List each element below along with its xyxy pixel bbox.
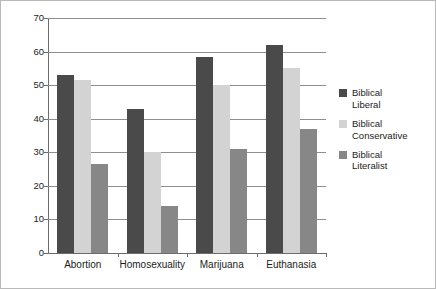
legend-swatch-icon-0	[339, 89, 347, 97]
bar-marijuana-biblical-liberal[interactable]	[196, 57, 213, 253]
x-tick-mark-3	[257, 253, 258, 257]
legend-label: BiblicalLiteralist	[352, 149, 387, 173]
legend-label: BiblicalConservative	[352, 118, 407, 142]
bar-marijuana-biblical-literalist[interactable]	[230, 149, 247, 253]
x-tick-mark-2	[187, 253, 188, 257]
legend-item-biblical-liberal[interactable]: BiblicalLiberal	[339, 87, 435, 111]
y-tick-mark-50	[44, 85, 48, 86]
y-tick-mark-20	[44, 186, 48, 187]
y-tick-label-10: 10	[4, 215, 44, 225]
y-tick-label-70: 70	[4, 13, 44, 23]
y-tick-mark-60	[44, 52, 48, 53]
plot-area	[48, 18, 326, 253]
bar-group-euthanasia	[266, 18, 317, 253]
legend-swatch-icon-2	[339, 151, 347, 159]
y-tick-label-40: 40	[4, 114, 44, 124]
y-tick-mark-10	[44, 219, 48, 220]
x-tick-label-homosexuality: Homosexuality	[119, 259, 185, 270]
y-tick-mark-40	[44, 119, 48, 120]
bar-marijuana-biblical-conservative[interactable]	[213, 85, 230, 253]
legend-item-biblical-conservative[interactable]: BiblicalConservative	[339, 118, 435, 142]
chart-figure: 010203040506070 AbortionHomosexualityMar…	[0, 0, 436, 289]
bar-euthanasia-biblical-conservative[interactable]	[283, 68, 300, 253]
y-tick-mark-0	[44, 253, 48, 254]
x-tick-label-euthanasia: Euthanasia	[266, 259, 316, 270]
bar-group-homosexuality	[127, 18, 178, 253]
legend-item-biblical-literalist[interactable]: BiblicalLiteralist	[339, 149, 435, 173]
legend-swatch-icon-1	[339, 120, 347, 128]
legend-label: BiblicalLiberal	[352, 87, 382, 111]
y-tick-label-60: 60	[4, 47, 44, 57]
y-tick-mark-30	[44, 152, 48, 153]
bar-group-marijuana	[196, 18, 247, 253]
x-tick-label-marijuana: Marijuana	[200, 259, 244, 270]
bar-homosexuality-biblical-conservative[interactable]	[144, 152, 161, 253]
bar-euthanasia-biblical-liberal[interactable]	[266, 45, 283, 253]
y-tick-label-0: 0	[4, 248, 44, 258]
y-axis-tick-labels: 010203040506070	[1, 18, 44, 253]
y-tick-label-30: 30	[4, 148, 44, 158]
bar-homosexuality-biblical-liberal[interactable]	[127, 109, 144, 253]
bar-group-abortion	[57, 18, 108, 253]
bar-abortion-biblical-liberal[interactable]	[57, 75, 74, 253]
x-tick-label-abortion: Abortion	[64, 259, 101, 270]
bar-abortion-biblical-conservative[interactable]	[74, 80, 91, 253]
bar-abortion-biblical-literalist[interactable]	[91, 164, 108, 253]
chart-legend: BiblicalLiberalBiblicalConservativeBibli…	[339, 87, 435, 179]
bar-euthanasia-biblical-literalist[interactable]	[300, 129, 317, 253]
y-tick-mark-70	[44, 18, 48, 19]
y-tick-label-50: 50	[4, 80, 44, 90]
bar-homosexuality-biblical-literalist[interactable]	[161, 206, 178, 253]
x-tick-mark-4	[326, 253, 327, 257]
y-tick-label-20: 20	[4, 181, 44, 191]
x-tick-mark-1	[118, 253, 119, 257]
